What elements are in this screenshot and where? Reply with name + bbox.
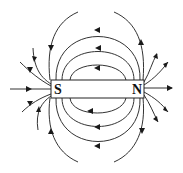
arrow-icon xyxy=(94,143,100,149)
magnet-body xyxy=(51,80,144,98)
left-upper-line-1 xyxy=(33,48,51,84)
top-field-loops xyxy=(56,27,140,80)
top-loop-middle xyxy=(62,52,134,81)
arrow-icon xyxy=(26,86,32,92)
arrow-icon xyxy=(48,128,54,134)
arrow-icon xyxy=(94,27,100,33)
arrow-icon xyxy=(167,85,173,91)
arrow-icon xyxy=(32,56,37,62)
field-lines-canvas: S N xyxy=(0,0,183,173)
arrow-icon xyxy=(94,124,100,130)
bar-magnet: S N xyxy=(51,80,144,98)
right-upper-line-1 xyxy=(144,54,157,82)
south-pole-label: S xyxy=(54,82,62,97)
arrow-icon xyxy=(95,45,101,51)
arrow-icon xyxy=(94,65,100,71)
bar-magnet-field-diagram: S N xyxy=(0,0,183,173)
bottom-loop-outer xyxy=(56,98,140,142)
bottom-loop-inner xyxy=(70,98,126,113)
north-pole-lines xyxy=(144,53,173,122)
south-pole-lines xyxy=(10,48,51,130)
left-upper-line-2 xyxy=(20,62,51,86)
bottom-loop-middle xyxy=(62,98,134,127)
top-loop-outer xyxy=(56,37,140,81)
bottom-field-loops xyxy=(56,98,140,149)
arrow-icon xyxy=(48,45,54,51)
left-lower-line-1 xyxy=(22,94,51,112)
arrow-icon xyxy=(87,108,93,114)
north-pole-label: N xyxy=(132,82,142,97)
arrow-icon xyxy=(153,53,158,59)
